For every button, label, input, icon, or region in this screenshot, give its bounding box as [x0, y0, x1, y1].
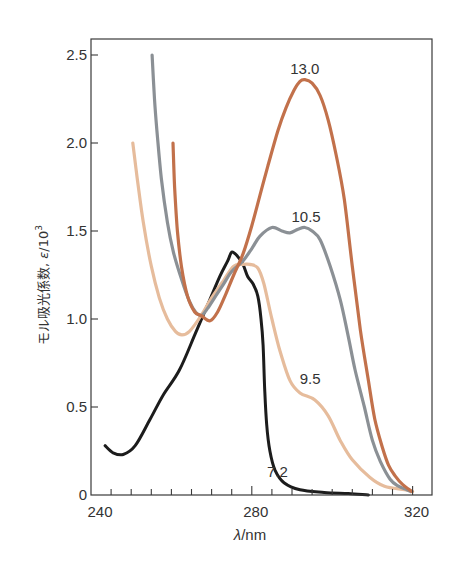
curve-ph-7-2: [105, 252, 368, 495]
x-tick-label: 320: [404, 503, 429, 520]
epsilon-symbol: ε: [36, 252, 51, 259]
y-axis-ticks: 00.51.01.52.02.5: [66, 46, 98, 503]
y-axis-label: モル吸光係数, ε/103: [34, 225, 51, 345]
y-tick-label: 2.5: [66, 46, 87, 63]
y-axis-label-scale: /10: [36, 231, 51, 252]
series-label-ph-13-0: 13.0: [290, 60, 319, 77]
series-label-ph-7-2: 7.2: [267, 463, 288, 480]
x-axis-label: λ/nm: [233, 526, 266, 543]
series-labels: 7.29.510.513.0: [267, 60, 321, 480]
curve-ph-13-0: [173, 79, 412, 491]
y-tick-label: 0: [79, 486, 87, 503]
y-axis-label-exponent: 3: [34, 225, 44, 231]
y-axis-label-main: モル吸光係数,: [36, 259, 51, 345]
plot-frame: [91, 39, 432, 495]
x-tick-label: 240: [87, 503, 112, 520]
y-tick-label: 1.5: [66, 222, 87, 239]
x-axis-ticks: 240280320: [87, 486, 429, 520]
y-tick-label: 0.5: [66, 398, 87, 415]
spectrum-curves: [105, 55, 413, 495]
lambda-symbol: λ: [233, 526, 241, 543]
y-tick-label: 1.0: [66, 310, 87, 327]
absorption-spectrum-chart: 240280320 00.51.01.52.02.5 7.29.510.513.…: [0, 0, 461, 567]
series-label-ph-10-5: 10.5: [291, 208, 320, 225]
series-label-ph-9-5: 9.5: [300, 370, 321, 387]
y-tick-label: 2.0: [66, 134, 87, 151]
x-axis-unit: /nm: [241, 526, 266, 543]
x-tick-label: 280: [243, 503, 268, 520]
